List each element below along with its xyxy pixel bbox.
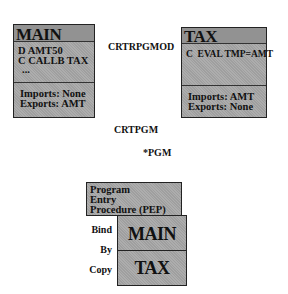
- by-label: By: [72, 244, 112, 255]
- pep-line-3: Procedure (PEP): [90, 205, 166, 215]
- main-code-ellipsis: ...: [22, 65, 30, 75]
- tax-box-front: TAX C EVAL TMP=AMT Imports: AMT Exports:…: [181, 27, 267, 118]
- pep-box: Program Entry Procedure (PEP): [86, 182, 182, 216]
- tax-title: TAX: [184, 28, 217, 45]
- bound-tax-box: TAX: [117, 250, 187, 286]
- tax-section-divider: [182, 85, 266, 86]
- pgm-label: *PGM: [143, 147, 171, 158]
- bound-tax-title: TAX: [118, 259, 186, 277]
- bound-main-box: MAIN: [117, 215, 187, 251]
- tax-exports: Exports: None: [188, 102, 253, 112]
- tax-code-line-1: C EVAL TMP=AMT: [186, 49, 273, 59]
- main-title: MAIN: [16, 26, 61, 43]
- crtrpgmod-label: CRTRPGMOD: [108, 41, 174, 52]
- main-box-front: MAIN D AMT50 C CALLB TAX ... Imports: No…: [13, 24, 95, 118]
- main-exports: Exports: AMT: [20, 99, 86, 109]
- crtpgm-label: CRTPGM: [114, 124, 158, 135]
- bound-main-title: MAIN: [118, 225, 186, 243]
- main-section-divider: [14, 82, 94, 83]
- bind-label: Bind: [72, 224, 112, 235]
- copy-label: Copy: [72, 264, 112, 275]
